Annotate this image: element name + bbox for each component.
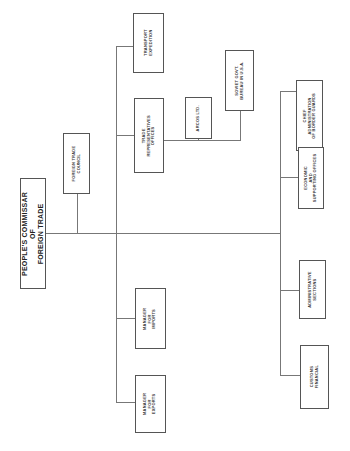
manager-exports-box: MANAGER FOR EXPORTS [135, 375, 166, 433]
soviet-govt-bureau-box: SOVIET GOVT. BUREAU IN U.S.A. [225, 50, 254, 111]
main-horizontal-connector [45, 233, 281, 234]
administrative-sections-box: ADMINISTRATIVE SECTIONS [299, 260, 326, 319]
trade-reps-right-branch [163, 140, 241, 141]
economic-offices-label: ECONOMIC AND SUPPORTING OFFICES [304, 154, 318, 203]
soviet-govt-bureau-label: SOVIET GOVT. BUREAU IN U.S.A. [235, 61, 244, 99]
bureau-connector [240, 110, 241, 141]
transport-branch [116, 46, 134, 47]
transport-expedition-box: TRANSPORT EXPEDITION [133, 13, 164, 73]
admin-branch [280, 290, 299, 291]
manager-imports-label: MANAGER FOR IMPORTS [144, 307, 158, 329]
border-guards-label: CHIEF ADMINISTRATION OF BORDER GUARDS [303, 93, 317, 139]
foreign-trade-council-box: FOREIGN TRADE COUNCIL [63, 133, 90, 194]
council-connector [77, 193, 78, 233]
customs-branch [280, 375, 300, 376]
arcos-label: ARCOS LTD. [196, 105, 201, 131]
imports-branch [116, 318, 135, 319]
exports-branch [116, 402, 135, 403]
customs-financial-box: CUSTOMS FINANCIAL [300, 345, 329, 409]
arcos-box: ARCOS LTD. [185, 97, 212, 139]
right-trunk [280, 91, 281, 376]
transport-expedition-label: TRANSPORT EXPEDITION [144, 30, 153, 57]
left-trunk [116, 46, 117, 402]
trade-reps-branch [116, 135, 134, 136]
manager-imports-box: MANAGER FOR IMPORTS [135, 288, 166, 349]
foreign-trade-council-label: FOREIGN TRADE COUNCIL [72, 146, 81, 182]
border-guards-branch [280, 91, 296, 92]
trade-representatives-label: TRADE REPRESENTATIVES OFFICES [142, 115, 156, 156]
manager-exports-label: MANAGER FOR EXPORTS [144, 393, 158, 415]
economic-branch [280, 177, 298, 178]
administrative-sections-label: ADMINISTRATIVE SECTIONS [308, 271, 317, 308]
economic-offices-box: ECONOMIC AND SUPPORTING OFFICES [298, 147, 324, 209]
peoples-commissar-label: PEOPLE'S COMMISSAR OF FOREIGN TRADE [21, 192, 45, 276]
border-guards-box: CHIEF ADMINISTRATION OF BORDER GUARDS [296, 80, 323, 151]
peoples-commissar-box: PEOPLE'S COMMISSAR OF FOREIGN TRADE [20, 178, 46, 289]
trade-representatives-box: TRADE REPRESENTATIVES OFFICES [134, 98, 164, 173]
customs-financial-label: CUSTOMS FINANCIAL [310, 365, 319, 388]
